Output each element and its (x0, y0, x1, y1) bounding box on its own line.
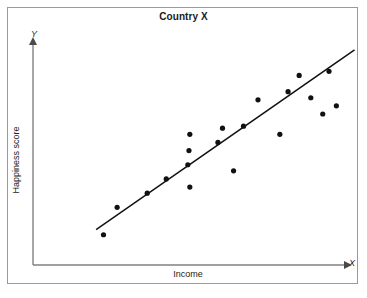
data-point (187, 132, 192, 137)
data-point (215, 140, 220, 145)
data-point (297, 73, 302, 78)
data-point (255, 97, 260, 102)
data-point (320, 111, 325, 116)
trend-line (96, 50, 354, 230)
data-point (308, 95, 313, 100)
data-point (277, 132, 282, 137)
data-point (187, 184, 192, 189)
data-points-group (101, 69, 339, 238)
scatter-plot-figure: Country X Happiness score Income Y X (0, 0, 367, 298)
data-point (145, 191, 150, 196)
data-point (241, 124, 246, 129)
data-point (186, 148, 191, 153)
plot-canvas (0, 0, 367, 298)
data-point (231, 168, 236, 173)
data-point (285, 89, 290, 94)
data-point (115, 205, 120, 210)
data-point (326, 69, 331, 74)
data-point (334, 103, 339, 108)
data-point (185, 162, 190, 167)
data-point (164, 176, 169, 181)
data-point (101, 232, 106, 237)
data-point (220, 126, 225, 131)
